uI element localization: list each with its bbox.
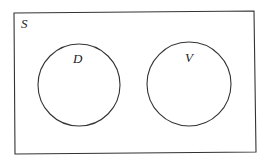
venn-diagram: S D V xyxy=(0,0,266,158)
set-d-label: D xyxy=(72,51,83,66)
set-v-label: V xyxy=(185,50,195,65)
universe-rectangle xyxy=(14,11,256,154)
universe-label: S xyxy=(21,16,28,31)
